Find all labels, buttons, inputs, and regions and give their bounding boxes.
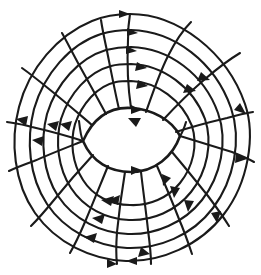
radial-trajectory-inner-left-tail: [79, 121, 83, 141]
flow-field-diagram: Concentric streamline flow field with ce…: [0, 0, 261, 275]
ring-arrow-4-left: [60, 121, 72, 131]
radial-trajectory-se: [157, 166, 192, 254]
figure-root: Concentric streamline flow field with ce…: [0, 0, 261, 275]
ring-arrow-1-bottom: [126, 257, 137, 265]
ring-arrow-4-lower-right: [162, 174, 171, 186]
radial-trajectory-s: [116, 172, 125, 264]
radial-trajectory-n: [128, 14, 131, 108]
stream-ring-2: [30, 30, 236, 248]
ring-arrow-3-bottom: [92, 214, 105, 224]
lens-arrow-top: [131, 105, 142, 114]
ring-arrow-1-top: [119, 10, 130, 18]
radial-arrow-north-inner: [128, 118, 141, 127]
ring-arrow-2-left: [32, 136, 44, 146]
ring-arrow-3-left: [47, 121, 59, 131]
